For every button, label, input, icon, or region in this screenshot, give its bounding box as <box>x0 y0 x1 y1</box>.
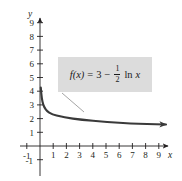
x-tick-label: 8 <box>143 150 148 160</box>
fraction-numerator: 1 <box>114 65 120 73</box>
formula-ln: ln <box>124 69 132 80</box>
x-tick-label: 1 <box>51 150 56 160</box>
function-curve <box>41 88 166 125</box>
y-tick-label: 1 <box>30 128 35 138</box>
x-axis-name: x <box>167 150 173 160</box>
x-tick-label: 9 <box>157 150 162 160</box>
y-tick-label: -1 <box>26 156 34 166</box>
y-tick-label: 8 <box>30 32 35 42</box>
formula-equals: = <box>87 69 93 80</box>
formula-callout-box: f(x) = 3 − 1 2 ln x <box>58 57 152 92</box>
x-tick-label: 5 <box>104 150 109 160</box>
y-tick-label: 6 <box>30 59 35 69</box>
figure-container: -1 1 2 3 4 5 6 7 8 9 -1 1 2 3 4 5 6 7 8 … <box>0 0 182 181</box>
x-tick-label: 2 <box>64 150 69 160</box>
y-tick-label: 3 <box>30 100 35 110</box>
x-tick-label: 6 <box>117 150 122 160</box>
y-tick-label: 4 <box>30 86 35 96</box>
formula-constant: 3 <box>96 69 101 80</box>
y-tick-label: 7 <box>30 45 35 55</box>
fraction-denominator: 2 <box>114 76 120 84</box>
y-tick-label: 5 <box>30 73 35 83</box>
formula-variable: x <box>136 69 141 80</box>
formula-fx: f(x) <box>70 69 85 80</box>
formula-expression: f(x) = 3 − 1 2 ln x <box>70 65 141 84</box>
x-tick-label: 4 <box>91 150 96 160</box>
callout-leader-line <box>62 93 84 112</box>
y-axis-name: y <box>27 9 33 19</box>
formula-minus: − <box>104 69 110 80</box>
x-tick-label: 3 <box>77 150 82 160</box>
y-tick-label: 9 <box>30 18 35 28</box>
y-tick-label: 2 <box>30 114 35 124</box>
x-tick-label: 7 <box>130 150 135 160</box>
formula-fraction: 1 2 <box>114 65 120 84</box>
